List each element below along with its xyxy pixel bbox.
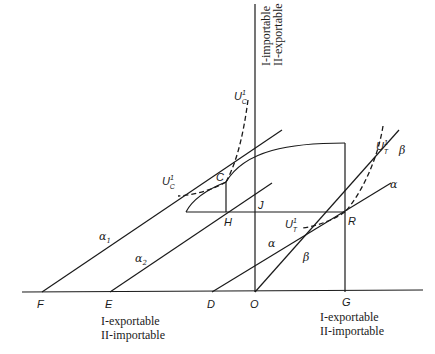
horizontal-axis <box>22 290 423 292</box>
label-UT-top: U1T <box>376 139 389 155</box>
point-E: E <box>105 298 113 310</box>
label-beta-right: β <box>398 144 405 157</box>
indifference-curve-UC-top <box>226 100 248 182</box>
point-R: R <box>348 215 356 227</box>
label-alpha-right: α <box>390 178 398 191</box>
vertical-axis-label: I-importable II-exportable <box>259 3 285 66</box>
label-alpha1: α1 <box>99 230 111 245</box>
label-UC-left: U1C <box>162 174 176 190</box>
point-D: D <box>207 298 215 310</box>
label-left-i-exportable: I-exportable <box>101 314 160 328</box>
label-alpha2: α2 <box>135 252 147 267</box>
line-beta <box>255 130 399 292</box>
lower-frontier-curve <box>186 182 226 212</box>
point-C: C <box>216 171 224 183</box>
point-J: J <box>257 199 264 211</box>
upper-frontier-curve <box>226 143 345 182</box>
point-F: F <box>37 298 45 310</box>
label-alpha-lower: α <box>268 237 276 250</box>
line-alpha2 <box>110 183 272 292</box>
label-UT-left: U1T <box>285 217 298 233</box>
label-UC-top: U1C <box>234 89 248 105</box>
line-alpha <box>212 183 391 292</box>
label-beta-lower: β <box>302 251 309 264</box>
label-right-ii-importable: II-importable <box>320 324 384 338</box>
label-left-ii-importable: II-importable <box>101 328 165 342</box>
point-O: O <box>250 298 259 310</box>
label-ii-exportable: II-exportable <box>271 3 285 66</box>
line-alpha1 <box>42 130 282 292</box>
point-G: G <box>342 296 351 308</box>
label-right-i-exportable: I-exportable <box>320 310 379 324</box>
point-H: H <box>224 216 232 228</box>
trade-diagram: I-importable II-exportable I-exportable … <box>0 0 435 354</box>
